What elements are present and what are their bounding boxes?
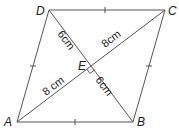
vertex-label-e: E xyxy=(78,59,87,73)
right-angle-marker xyxy=(87,69,95,73)
measure-de: 6cm xyxy=(55,28,77,52)
rhombus-diagram: D C A B E 6cm 8cm 8 cm 6cm xyxy=(0,0,179,132)
vertex-label-d: D xyxy=(36,4,45,18)
vertex-label-b: B xyxy=(137,115,145,129)
diagram-svg: D C A B E 6cm 8cm 8 cm 6cm xyxy=(0,0,179,132)
measure-ae: 8 cm xyxy=(40,74,66,98)
diagonal-db xyxy=(49,10,133,122)
measure-ec: 8cm xyxy=(99,28,123,50)
vertex-label-a: A xyxy=(3,115,12,129)
vertex-label-c: C xyxy=(168,4,177,18)
